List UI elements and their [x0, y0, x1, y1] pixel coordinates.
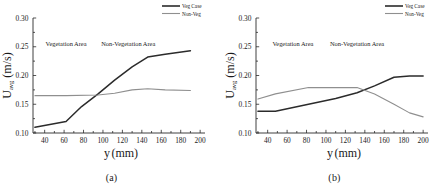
y-tick-label: 0.25 [239, 42, 252, 51]
x-tick-label: 80 [80, 136, 88, 145]
plot-annotation: Vegetation Area [46, 40, 87, 47]
x-tick-label: 80 [303, 136, 311, 145]
y-tick-label: 0.10 [16, 129, 29, 138]
x-tick-label: 180 [398, 136, 409, 145]
x-tick-label: 60 [283, 136, 291, 145]
x-tick-label: 40 [41, 136, 49, 145]
plot-annotation: Non-Vegetation Area [330, 40, 384, 47]
legend-label: Non-Veg [182, 11, 201, 17]
plot-annotation: Non-Vegetation Area [101, 40, 155, 47]
x-tick-label: 120 [340, 136, 351, 145]
x-tick-label: 100 [320, 136, 331, 145]
series-line-non-veg [35, 89, 190, 96]
y-axis-title: Uavg (m/s) [223, 52, 237, 98]
y-tick-label: 0.25 [16, 42, 29, 51]
y-axis-title: Uavg (m/s) [0, 52, 14, 98]
x-axis-title: y(mm) [104, 146, 138, 160]
x-tick-label: 180 [175, 136, 186, 145]
y-tick-label: 0.30 [16, 14, 29, 23]
y-tick-label: 0.15 [239, 100, 252, 109]
series-line-veg-case [35, 51, 190, 127]
x-tick-label: 200 [418, 136, 429, 145]
y-tick-label: 0.10 [239, 129, 252, 138]
chart-a-canvas: 0.100.150.200.250.3040608010012014016018… [0, 0, 223, 185]
x-tick-label: 200 [195, 136, 206, 145]
x-tick-label: 120 [117, 136, 128, 145]
legend-label: Non-Veg [405, 11, 424, 17]
x-tick-label: 140 [359, 136, 370, 145]
chart-b-canvas: 0.100.150.200.250.3040608010012014016018… [223, 0, 446, 185]
x-axis-title: y(mm) [327, 146, 361, 160]
chart-panel-b: 0.100.150.200.250.3040608010012014016018… [223, 0, 446, 185]
x-tick-label: 160 [156, 136, 167, 145]
panel-caption-b: (b) [223, 172, 446, 183]
x-tick-label: 40 [264, 136, 272, 145]
series-line-non-veg [258, 88, 423, 117]
y-tick-label: 0.20 [239, 71, 252, 80]
panel-caption-a: (a) [0, 172, 223, 183]
x-tick-label: 140 [136, 136, 147, 145]
x-tick-label: 100 [97, 136, 108, 145]
y-tick-label: 0.30 [239, 14, 252, 23]
legend-label: Veg Case [182, 3, 202, 9]
figure-container: 0.100.150.200.250.3040608010012014016018… [0, 0, 446, 185]
chart-panel-a: 0.100.150.200.250.3040608010012014016018… [0, 0, 223, 185]
series-line-veg-case [258, 76, 423, 111]
y-tick-label: 0.20 [16, 71, 29, 80]
legend-label: Veg Case [405, 3, 425, 9]
x-tick-label: 60 [60, 136, 68, 145]
y-tick-label: 0.15 [16, 100, 29, 109]
plot-annotation: Vegetation Area [272, 40, 313, 47]
x-tick-label: 160 [379, 136, 390, 145]
